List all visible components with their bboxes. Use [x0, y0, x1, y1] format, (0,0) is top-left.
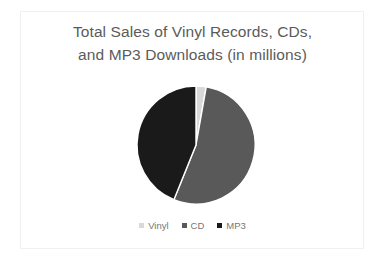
- legend-label: CD: [191, 220, 205, 231]
- legend-item-cd[interactable]: CD: [182, 220, 205, 231]
- pie-chart-svg: [130, 79, 262, 211]
- legend-label: MP3: [226, 220, 246, 231]
- slide-canvas: Total Sales of Vinyl Records, CDs, and M…: [0, 0, 385, 263]
- legend-item-vinyl[interactable]: Vinyl: [139, 220, 168, 231]
- legend-label: Vinyl: [148, 220, 168, 231]
- pie-slice-group: [137, 86, 255, 204]
- legend-item-mp3[interactable]: MP3: [217, 220, 246, 231]
- legend-swatch-icon: [217, 223, 222, 228]
- legend-swatch-icon: [139, 223, 144, 228]
- legend-swatch-icon: [182, 223, 187, 228]
- chart-legend: VinylCDMP3: [0, 220, 385, 231]
